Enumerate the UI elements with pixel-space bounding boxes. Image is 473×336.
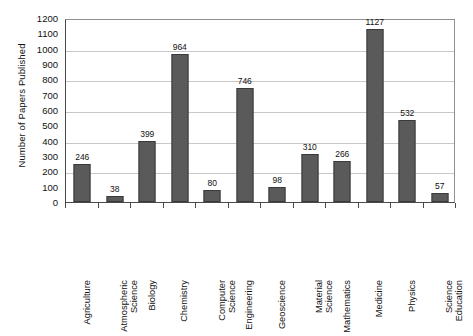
y-axis-tick-label: 100 (22, 183, 58, 193)
bar-value-label: 746 (238, 77, 252, 86)
bar-value-label: 38 (110, 185, 119, 194)
plot-area: 246383999648074698310266112753257 (65, 19, 455, 203)
x-axis-tick (228, 203, 229, 208)
bar-value-label: 964 (173, 43, 187, 52)
x-axis-tick (163, 203, 164, 208)
bar-value-label: 399 (140, 130, 154, 139)
bar-value-label: 1127 (366, 18, 384, 27)
bar-slot: 399 (131, 20, 164, 202)
y-axis-tick-label: 900 (22, 60, 58, 70)
bar-slot: 310 (294, 20, 327, 202)
x-axis-tick (455, 203, 456, 208)
x-axis-tick (130, 203, 131, 208)
bar[interactable] (269, 187, 286, 202)
x-axis-tick (423, 203, 424, 208)
bar-slot: 98 (261, 20, 294, 202)
x-axis-category-label: AtmosphericScience (119, 280, 139, 336)
x-axis-tick (260, 203, 261, 208)
x-axis-tick (325, 203, 326, 208)
x-axis-tick (98, 203, 99, 208)
y-axis-tick-label: 800 (22, 75, 58, 85)
y-axis-tick-label: 600 (22, 106, 58, 116)
bar[interactable] (334, 161, 351, 202)
bar-slot: 964 (164, 20, 197, 202)
x-axis-tick (358, 203, 359, 208)
bar[interactable] (236, 88, 253, 202)
y-axis-tick-label: 200 (22, 167, 58, 177)
bar-value-label: 80 (208, 179, 217, 188)
y-axis-tick-label: 1000 (22, 45, 58, 55)
bar[interactable] (171, 54, 188, 202)
y-axis-tick-label: 300 (22, 152, 58, 162)
bar-slot: 80 (196, 20, 229, 202)
bar-value-label: 266 (335, 150, 349, 159)
bar-slot: 266 (326, 20, 359, 202)
x-axis-category-label: Agriculture (82, 280, 92, 336)
x-axis-tick (65, 203, 66, 208)
x-axis-tick (390, 203, 391, 208)
bar[interactable] (431, 193, 448, 202)
bar[interactable] (399, 120, 416, 202)
bar[interactable] (106, 196, 123, 202)
x-axis-category-label: Geoscience (277, 280, 287, 336)
bar-slot: 57 (424, 20, 457, 202)
bar-value-label: 57 (435, 182, 444, 191)
x-axis-category-label: ComputerScience (217, 280, 237, 336)
y-axis-tick-label: 1200 (22, 14, 58, 24)
x-axis-tick (195, 203, 196, 208)
bar-value-label: 98 (273, 176, 282, 185)
y-axis-tick-label: 0 (22, 198, 58, 208)
x-axis-category-label: Medicine (374, 280, 384, 336)
y-axis-tick-label: 500 (22, 121, 58, 131)
x-axis-category-label: Chemistry (179, 280, 189, 336)
x-axis-category-label: Physics (407, 280, 417, 336)
bar-slot: 1127 (359, 20, 392, 202)
bar-value-label: 246 (75, 153, 89, 162)
x-axis-category-label: Engineering (244, 280, 254, 336)
x-axis-category-label: MaterialScience (314, 280, 334, 336)
y-axis-tick-label: 400 (22, 137, 58, 147)
x-axis-category-label: Biology (147, 280, 157, 336)
bar-slot: 746 (229, 20, 262, 202)
bar[interactable] (301, 154, 318, 202)
x-axis-category-label: Mathematics (342, 280, 352, 336)
y-axis-tick-label: 1100 (22, 29, 58, 39)
bar[interactable] (139, 141, 156, 202)
bar-slot: 246 (66, 20, 99, 202)
bar-slot: 38 (99, 20, 132, 202)
x-axis-category-label: ScienceEducation (444, 280, 464, 336)
bar[interactable] (204, 190, 221, 202)
bar-value-label: 310 (303, 143, 317, 152)
bar[interactable] (74, 164, 91, 202)
bar-slot: 532 (391, 20, 424, 202)
y-axis-tick-label: 700 (22, 91, 58, 101)
bar-value-label: 532 (400, 109, 414, 118)
bar[interactable] (366, 29, 383, 202)
x-axis-tick (293, 203, 294, 208)
